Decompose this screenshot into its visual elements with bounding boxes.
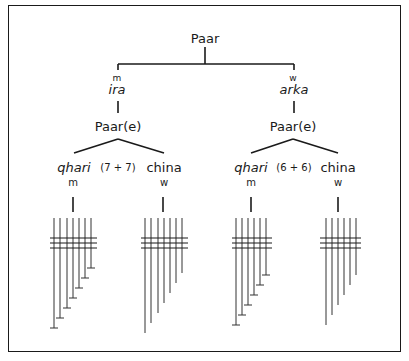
root-label: Paar xyxy=(191,32,220,45)
arka-china-label: china xyxy=(320,161,355,174)
arka-qhari-gender: m xyxy=(246,178,256,188)
arka-label: arka xyxy=(280,83,309,96)
ira-tube-count: (7 + 7) xyxy=(100,163,135,173)
arka-qhari-label: qhari xyxy=(234,161,267,174)
tree-connectors xyxy=(0,0,409,361)
ira-qhari-gender: m xyxy=(68,178,78,188)
arka-paare-label: Paar(e) xyxy=(270,120,317,133)
panpipe-ira-qhari xyxy=(50,218,97,328)
panpipe-ira-china xyxy=(141,218,188,333)
panpipe-arka-china xyxy=(320,218,361,325)
arka-tube-count: (6 + 6) xyxy=(276,163,311,173)
ira-china-label: china xyxy=(146,161,181,174)
panpipe-arka-qhari xyxy=(232,218,272,325)
ira-paare-label: Paar(e) xyxy=(95,120,142,133)
arka-china-gender: w xyxy=(334,178,342,188)
ira-china-gender: w xyxy=(160,178,168,188)
ira-label: ira xyxy=(109,83,126,96)
ira-qhari-label: qhari xyxy=(57,161,90,174)
